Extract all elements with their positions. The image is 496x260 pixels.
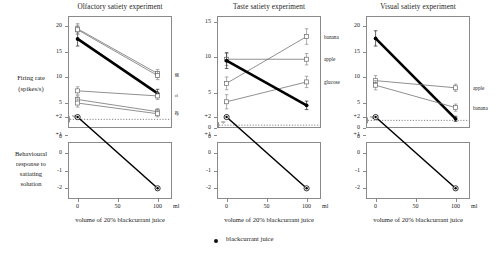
behav-series-layer-2 <box>0 0 496 260</box>
behav-axis-title-line2: response to <box>2 160 60 167</box>
legend-marker-icon <box>214 239 218 243</box>
firing-axis-title-line2: (spikes/s) <box>2 85 60 92</box>
figure-canvas: Olfactory satiety experiment5101520spapb… <box>0 0 496 260</box>
behav-axis-title-line4: solution <box>2 180 60 187</box>
behav-marker-2-1 <box>454 187 456 189</box>
legend-label: blackcurrant juice <box>226 235 273 242</box>
behav-marker-2-0 <box>374 116 376 118</box>
behav-axis-title-line1: Behavioural <box>2 150 60 157</box>
firing-axis-title-line1: Firing rate <box>2 74 60 81</box>
behav-axis-title-line3: satiating <box>2 170 60 177</box>
behav-line-2 <box>376 117 456 188</box>
